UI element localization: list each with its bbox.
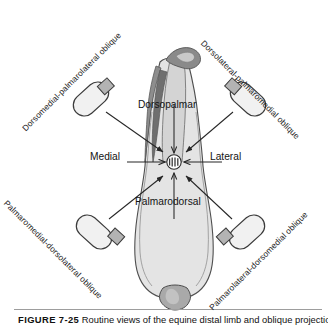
figure-caption: FIGURE 7-25 Routine views of the equine … [18, 314, 328, 326]
figure-container: Dorsomedial-palmarolateral oblique Dorso… [0, 0, 336, 326]
tube-head-body [225, 210, 269, 253]
caption-rule [14, 309, 322, 310]
diagram-canvas [0, 0, 336, 326]
central-beam-hub [167, 155, 181, 169]
figure-caption-number: FIGURE 7-25 [18, 314, 79, 325]
figure-caption-text: Routine views of the equine distal limb … [82, 314, 328, 325]
tube-head-body [72, 210, 116, 253]
